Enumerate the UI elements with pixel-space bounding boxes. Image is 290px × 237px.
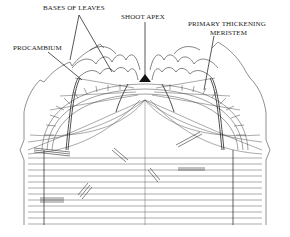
label-procambium: PROCAMBIUM (13, 44, 62, 52)
label-bases-of-leaves: BASES OF LEAVES (43, 4, 105, 12)
label-primary-thickening-line1: PRIMARY THICKENING (188, 20, 266, 28)
shoot-apex-diagram: BASES OF LEAVES SHOOT APEX PRIMARY THICK… (0, 0, 290, 237)
shoot-apex-marker (139, 74, 151, 82)
leader-procambium (48, 52, 82, 80)
label-shoot-apex: SHOOT APEX (121, 13, 165, 21)
leader-bases-of-leaves-1 (70, 15, 79, 60)
label-primary-thickening-line2: MERISTEM (210, 29, 247, 37)
strand-bundles (34, 132, 205, 202)
leader-primary-thickening (204, 36, 214, 90)
